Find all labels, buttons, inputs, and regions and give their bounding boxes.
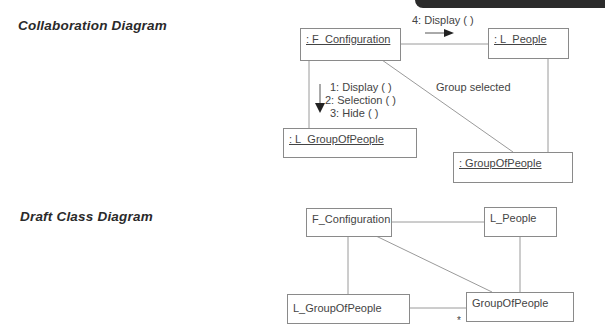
class-l-groupofpeople: L_GroupOfPeople [287, 294, 410, 324]
assoc-fconfig-groupofpeople [376, 236, 492, 292]
object-groupofpeople: : GroupOfPeople [453, 152, 573, 183]
class-label: F_Configuration [312, 213, 390, 225]
arrow-right-icon [444, 29, 454, 37]
class-label: GroupOfPeople [472, 297, 548, 309]
multiplicity-star: * [457, 314, 461, 327]
link-label-group-selected: Group selected [436, 81, 511, 94]
class-f-configuration: F_Configuration [306, 208, 392, 237]
message-selection-2: 2: Selection ( ) [325, 94, 396, 107]
message-display-4: 4: Display ( ) [412, 14, 474, 27]
object-label: : GroupOfPeople [459, 157, 542, 169]
message-display-1: 1: Display ( ) [330, 81, 392, 94]
object-label: : F_Configuration [306, 33, 390, 45]
class-label: L_GroupOfPeople [293, 302, 382, 314]
object-label: : L_GroupOfPeople [289, 133, 384, 145]
object-l-people: : L_People [488, 28, 569, 59]
message-hide-3: 3: Hide ( ) [330, 107, 378, 120]
object-f-configuration: : F_Configuration [300, 28, 401, 61]
arrow-down-icon [315, 103, 325, 113]
object-label: : L_People [494, 33, 547, 45]
object-l-groupofpeople: : L_GroupOfPeople [283, 128, 417, 158]
class-groupofpeople: GroupOfPeople [466, 292, 574, 322]
class-l-people: L_People [484, 207, 557, 237]
class-label: L_People [490, 212, 537, 224]
